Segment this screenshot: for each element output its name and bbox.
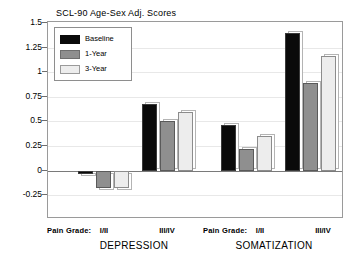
group-name-somatization: SOMATIZATION	[235, 240, 312, 251]
grade-label-depression-iii-iv: III/IV	[159, 226, 174, 235]
chart-figure: SCL-90 Age-Sex Adj. Scores 1.5 1.25 1 0.…	[0, 0, 358, 264]
y-tick-label-0-25: 0.25	[2, 140, 42, 150]
bar-depression-iii-iv-1year	[160, 121, 175, 170]
bar-depression-i-ii-baseline	[78, 171, 93, 174]
chart-title: SCL-90 Age-Sex Adj. Scores	[56, 8, 176, 18]
y-tick-label-neg-0-25: -0.25	[2, 189, 42, 199]
y-tick-label-0: 0	[2, 165, 42, 175]
bar-depression-i-ii-1year	[96, 171, 111, 189]
legend-swatch-3year	[60, 65, 80, 74]
bar-somatization-i-ii-3year	[257, 136, 272, 170]
grade-label-depression-i-ii: I/II	[100, 226, 108, 235]
bar-somatization-iii-iv-3year	[321, 56, 336, 171]
gridline	[48, 195, 342, 196]
group-name-depression: DEPRESSION	[100, 240, 169, 251]
y-tick-label-1-5: 1.5	[2, 17, 42, 27]
pain-grade-label-somatization: Pain Grade:	[203, 226, 247, 235]
bar-somatization-i-ii-1year	[239, 149, 254, 171]
bar-depression-iii-iv-baseline	[142, 104, 157, 171]
grade-label-somatization-iii-iv: III/IV	[315, 226, 330, 235]
y-tick-label-1: 1	[2, 66, 42, 76]
bar-depression-i-ii-3year	[114, 171, 129, 189]
bar-somatization-i-ii-baseline	[221, 125, 236, 170]
legend-label-1year: 1-Year	[85, 49, 107, 58]
grade-label-somatization-i-ii: I/II	[256, 226, 264, 235]
legend-label-baseline: Baseline	[85, 34, 114, 43]
bar-somatization-iii-iv-1year	[303, 83, 318, 171]
y-tick-label-1-25: 1.25	[2, 42, 42, 52]
y-tick-label-0-75: 0.75	[2, 91, 42, 101]
y-tick-label-0-5: 0.5	[2, 115, 42, 125]
legend-swatch-1year	[60, 50, 80, 59]
legend-swatch-baseline	[60, 35, 80, 44]
chart-legend: Baseline 1-Year 3-Year	[54, 27, 132, 81]
bar-depression-iii-iv-3year	[178, 112, 193, 171]
bar-somatization-iii-iv-baseline	[285, 33, 300, 171]
legend-label-3year: 3-Year	[85, 64, 107, 73]
pain-grade-label-depression: Pain Grade:	[47, 226, 91, 235]
